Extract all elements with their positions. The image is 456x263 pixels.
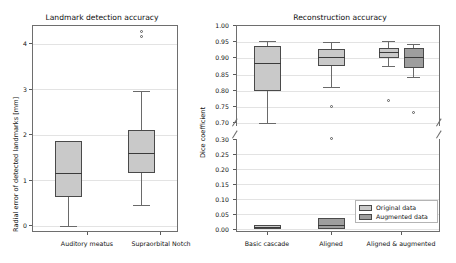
- whisker-cap-low: [407, 77, 420, 78]
- outlier-point: [387, 99, 390, 102]
- y-tick-lower-000: 0.00: [206, 226, 229, 233]
- legend-swatch-original-icon: [359, 205, 372, 211]
- x-tickmark-right-2: [401, 232, 402, 235]
- y-tick-lower-020: 0.20: [206, 166, 229, 173]
- whisker-cap-low: [382, 66, 395, 67]
- median-line: [55, 173, 82, 174]
- y-tick-upper-085: 0.85: [206, 71, 229, 78]
- median-line: [318, 57, 345, 58]
- box-iqr: [128, 130, 155, 173]
- y-tick-left-1: 1: [16, 177, 27, 184]
- chart-title-left: Landmark detection accuracy: [22, 13, 182, 22]
- figure-root: Landmark detection accuracy Radial error…: [0, 0, 456, 263]
- gridline-lower-020: [237, 169, 439, 170]
- outlier-point: [140, 30, 143, 33]
- y-tick-left-2: 2: [16, 131, 27, 138]
- chart-title-right: Reconstruction accuracy: [250, 13, 430, 22]
- x-tick-label-aligned-augmented: Aligned & augmented: [350, 240, 452, 247]
- box-iqr: [379, 48, 399, 58]
- y-tick-upper-070: 0.70: [206, 119, 229, 126]
- whisker-cap-high: [133, 91, 150, 92]
- legend-label-original-data: Original data: [376, 204, 416, 211]
- whisker-cap-high: [259, 41, 276, 42]
- gridline-lower-015: [237, 184, 439, 185]
- plot-area-right-upper: [236, 25, 440, 126]
- x-tick-label-basic-cascade: Basic cascade: [232, 240, 302, 247]
- y-tick-upper-090: 0.90: [206, 54, 229, 61]
- legend-item-original-data: Original data: [359, 203, 434, 212]
- median-line: [254, 63, 281, 64]
- y-tick-lower-010: 0.10: [206, 196, 229, 203]
- legend-item-augmented-data: Augmented data: [359, 212, 434, 221]
- box-iqr: [254, 46, 281, 91]
- y-tick-lower-005: 0.05: [206, 211, 229, 218]
- axis-break-lower-left: [232, 136, 240, 142]
- gridline-left-0: [33, 226, 177, 227]
- outlier-point: [140, 35, 143, 38]
- median-line: [404, 57, 424, 58]
- whisker-cap-low: [133, 205, 150, 206]
- plot-area-left: [32, 25, 178, 232]
- whisker-cap-low: [60, 226, 77, 227]
- median-line: [128, 153, 155, 154]
- legend-label-augmented-data: Augmented data: [376, 213, 428, 220]
- gridline-left-2: [33, 135, 177, 136]
- x-tick-label-auditory-meatus: Auditory meatus: [47, 240, 127, 247]
- whisker-cap-low: [259, 123, 276, 124]
- y-tick-lower-015: 0.15: [206, 181, 229, 188]
- outlier-point: [412, 111, 415, 114]
- gridline-left-4: [33, 44, 177, 45]
- whisker-cap-high: [323, 42, 340, 43]
- median-line: [254, 227, 281, 228]
- whisker-cap-high: [382, 41, 395, 42]
- whisker-cap-low: [323, 87, 340, 88]
- whisker-cap-high: [407, 44, 420, 45]
- legend: Original data Augmented data: [355, 200, 438, 223]
- y-tick-lower-030: 0.30: [206, 136, 229, 143]
- box-iqr: [55, 141, 82, 197]
- gridline-lower-000: [237, 229, 439, 230]
- y-tick-upper-075: 0.75: [206, 103, 229, 110]
- gridline-lower-025: [237, 154, 439, 155]
- outlier-point: [330, 137, 333, 140]
- box-iqr: [318, 218, 345, 229]
- y-tick-upper-100: 1.00: [206, 22, 229, 29]
- y-tick-upper-095: 0.95: [206, 38, 229, 45]
- box-iqr: [404, 48, 424, 68]
- x-tickmark-right-1: [331, 232, 332, 235]
- axis-break-lower-right: [436, 136, 444, 142]
- gridline-left-3: [33, 89, 177, 90]
- y-tick-left-3: 3: [16, 86, 27, 93]
- y-tick-upper-080: 0.80: [206, 87, 229, 94]
- y-tick-left-4: 4: [16, 40, 27, 47]
- x-tickmark-left-1: [160, 232, 161, 235]
- x-tickmark-left-0: [87, 232, 88, 235]
- y-tick-left-0: 0: [16, 222, 27, 229]
- y-axis-label-left: Radial error of detected landmarks [mm]: [12, 97, 20, 232]
- median-line: [379, 52, 399, 53]
- median-line: [318, 225, 345, 226]
- x-tickmark-right-0: [267, 232, 268, 235]
- y-tick-lower-025: 0.25: [206, 151, 229, 158]
- legend-swatch-augmented-icon: [359, 214, 372, 220]
- x-tick-label-supraorbital-notch: Supraorbital Notch: [118, 240, 204, 247]
